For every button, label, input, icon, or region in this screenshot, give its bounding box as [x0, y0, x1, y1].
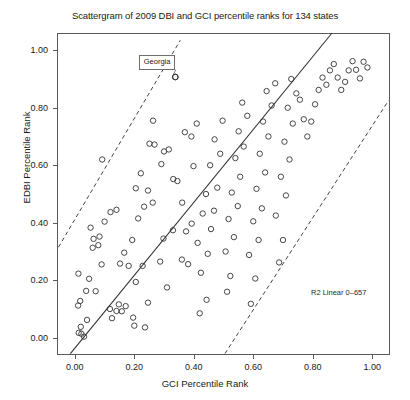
data-point	[86, 276, 91, 281]
data-point	[119, 309, 124, 314]
x-tick-label: 0.00	[66, 362, 84, 372]
y-tick-mark	[53, 280, 57, 281]
y-tick-mark	[53, 108, 57, 109]
data-point	[297, 97, 302, 102]
r2-linear-annotation: R2 Linear 0–657	[311, 288, 366, 297]
data-point	[342, 79, 347, 84]
data-point	[236, 129, 241, 134]
data-point	[282, 139, 287, 144]
data-point	[135, 216, 140, 221]
data-point	[145, 300, 150, 305]
x-tick-mark	[253, 355, 254, 359]
data-point	[254, 186, 259, 191]
data-point	[253, 276, 258, 281]
data-point	[99, 262, 104, 267]
data-point	[126, 263, 131, 268]
data-point	[335, 75, 340, 80]
y-tick-mark	[53, 165, 57, 166]
data-point	[133, 186, 138, 191]
data-point	[164, 285, 169, 290]
data-point	[246, 252, 251, 257]
data-point	[195, 240, 200, 245]
data-point	[179, 257, 184, 262]
data-point	[152, 142, 157, 147]
data-points-layer	[75, 58, 370, 339]
data-point	[90, 245, 95, 250]
x-tick-mark	[134, 355, 135, 359]
data-point	[350, 58, 355, 63]
data-point	[132, 323, 137, 328]
data-point	[141, 204, 146, 209]
data-point	[256, 237, 261, 242]
lower-band	[225, 101, 389, 354]
data-point	[76, 271, 81, 276]
x-tick-label: 0.20	[126, 362, 144, 372]
data-point	[280, 237, 285, 242]
data-point	[312, 102, 317, 107]
data-point	[257, 151, 262, 156]
data-point	[331, 61, 336, 66]
data-point	[114, 308, 119, 313]
data-point	[361, 59, 366, 64]
data-point	[301, 117, 306, 122]
data-point	[204, 297, 209, 302]
data-point	[248, 301, 253, 306]
data-point	[84, 317, 89, 322]
data-point	[123, 303, 128, 308]
x-tick-mark	[75, 355, 76, 359]
georgia-data-point	[172, 74, 178, 80]
data-point	[294, 91, 299, 96]
data-point	[278, 174, 283, 179]
data-point	[114, 207, 119, 212]
data-point	[200, 211, 205, 216]
data-point	[212, 137, 217, 142]
x-tick-mark	[372, 355, 373, 359]
data-point	[211, 208, 216, 213]
data-point	[259, 206, 264, 211]
data-point	[220, 118, 225, 123]
data-point	[182, 129, 187, 134]
data-point	[224, 289, 229, 294]
x-tick-label: 0.40	[185, 362, 203, 372]
data-point	[226, 216, 231, 221]
data-point	[229, 190, 234, 195]
data-point	[121, 250, 126, 255]
data-point	[241, 144, 246, 149]
y-tick-mark	[53, 50, 57, 51]
data-point	[83, 288, 88, 293]
data-point	[353, 67, 358, 72]
data-point	[197, 311, 202, 316]
data-point	[316, 87, 321, 92]
data-point	[285, 105, 290, 110]
data-point	[264, 88, 269, 93]
georgia-callout-label: Georgia	[139, 55, 176, 70]
data-point	[357, 76, 362, 81]
y-tick-label: 0.20	[8, 275, 48, 285]
data-point	[235, 203, 240, 208]
data-point	[223, 249, 228, 254]
data-point	[107, 306, 112, 311]
data-point	[208, 226, 213, 231]
data-point	[207, 163, 212, 168]
data-point	[203, 191, 208, 196]
data-point	[109, 316, 114, 321]
data-point	[78, 324, 83, 329]
data-point	[96, 242, 101, 247]
data-point	[189, 134, 194, 139]
data-point	[183, 229, 188, 234]
data-point	[130, 237, 135, 242]
data-point	[240, 100, 245, 105]
data-point	[150, 118, 155, 123]
data-point	[91, 236, 96, 241]
data-point	[117, 261, 122, 266]
data-point	[346, 68, 351, 73]
data-point	[320, 75, 325, 80]
data-point	[147, 141, 152, 146]
data-point	[108, 209, 113, 214]
data-point	[260, 119, 265, 124]
data-point	[161, 149, 166, 154]
x-tick-mark	[194, 355, 195, 359]
data-point	[205, 251, 210, 256]
x-tick-mark	[313, 355, 314, 359]
data-point	[327, 68, 332, 73]
